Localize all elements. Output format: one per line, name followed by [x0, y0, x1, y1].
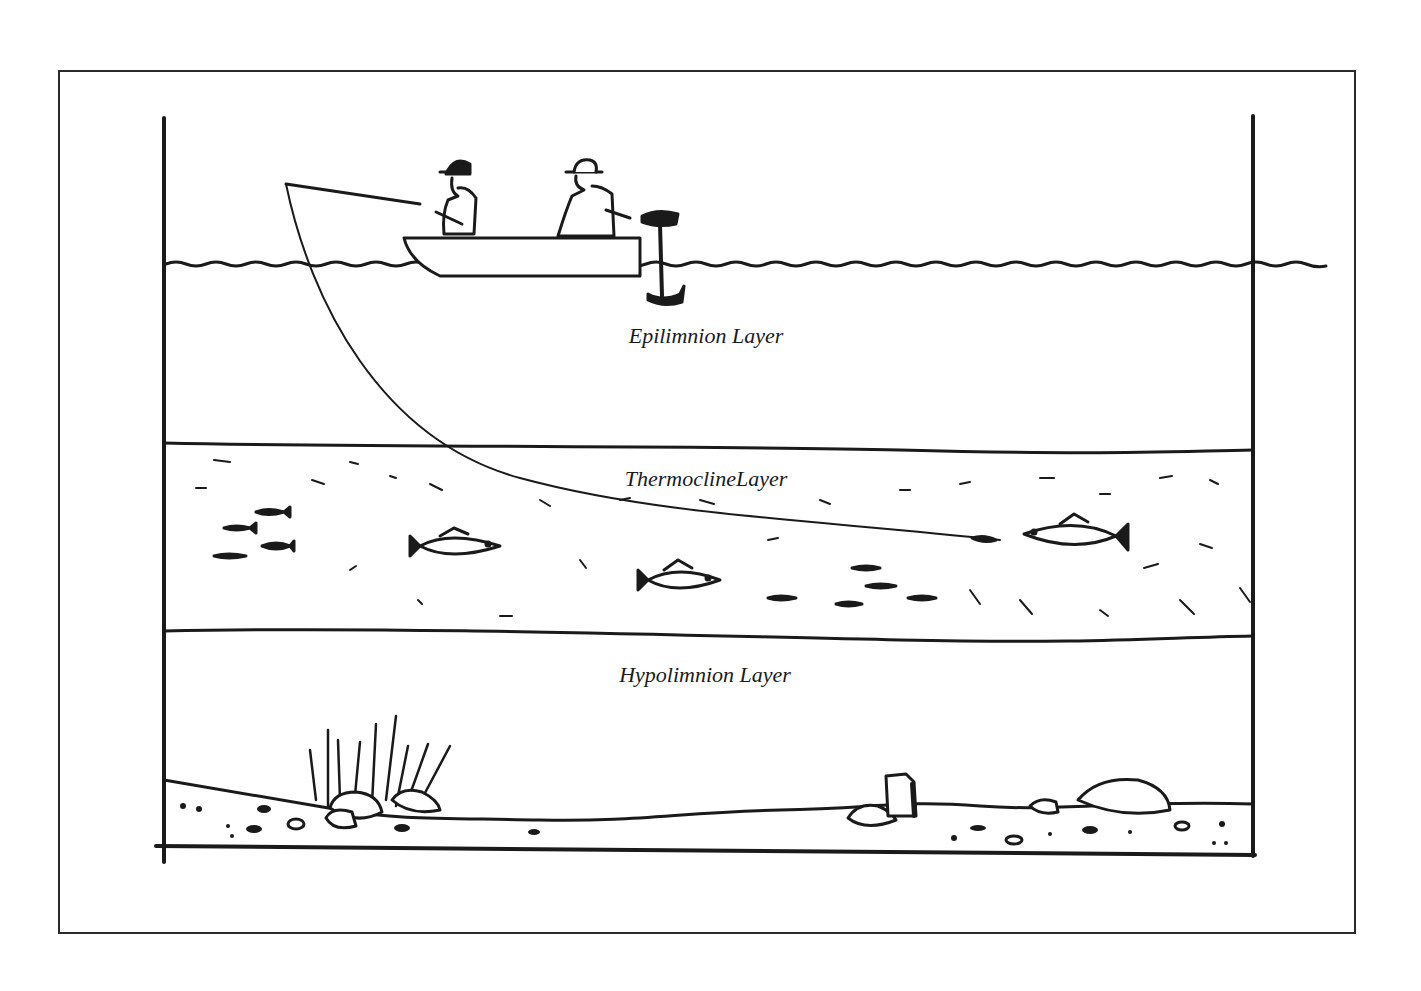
angler-icon: [436, 161, 476, 234]
thermocline-bottom-boundary: [164, 630, 1253, 642]
stump-shadow: [912, 784, 914, 816]
weed-bed-icon: [310, 716, 450, 806]
lake-cross-section: [0, 0, 1421, 991]
layer-label-thermocline: ThermoclineLayer: [625, 466, 788, 492]
layer-label-hypolimnion: Hypolimnion Layer: [619, 662, 791, 688]
boat-icon: [404, 160, 684, 305]
rocks-icon: [326, 779, 1170, 827]
baitfish-school: [214, 507, 996, 606]
water-surface: [166, 262, 1326, 267]
large-fish-icon: [410, 528, 500, 556]
fishing-rod: [286, 184, 420, 204]
large-fish-icon: [1024, 514, 1128, 550]
large-fish-icon: [638, 560, 720, 590]
angler-icon: [558, 160, 630, 236]
outboard-motor-icon: [642, 211, 684, 304]
layer-label-epilimnion: Epilimnion Layer: [629, 323, 784, 349]
thermocline-top-boundary: [164, 443, 1253, 453]
